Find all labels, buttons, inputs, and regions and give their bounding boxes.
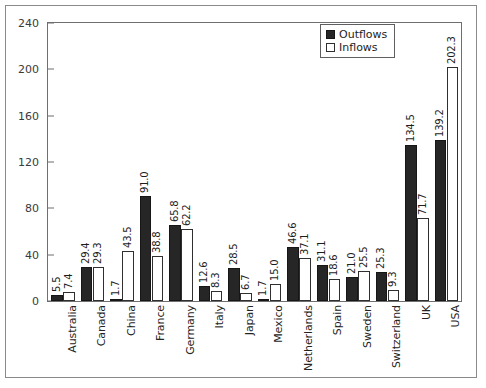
x-axis-label-switzerland: Switzerland (390, 305, 403, 368)
bar-value-label: 21.0 (345, 252, 356, 273)
bar-outflows: 1.7 (258, 299, 270, 301)
x-axis-label-mexico: Mexico (272, 305, 285, 343)
bar-inflows: 38.8 (152, 256, 164, 301)
bar-inflows: 6.7 (240, 293, 252, 301)
bar-outflows: 91.0 (140, 196, 152, 301)
legend-label-outflows: Outflows (339, 28, 387, 41)
bar-group: 1.715.0 (255, 23, 285, 301)
bar-value-label: 134.5 (404, 115, 415, 143)
chart-figure: 04080120160200240 5.57.429.429.31.743.59… (0, 0, 486, 388)
bar-inflows: 9.3 (388, 290, 400, 301)
bar-value-label: 7.4 (62, 274, 73, 289)
bar-value-label: 65.8 (168, 200, 179, 221)
x-axis-label-canada: Canada (95, 305, 108, 346)
bar-value-label: 31.1 (316, 241, 327, 262)
bar-inflows: 62.2 (181, 229, 193, 301)
bar-value-label: 71.7 (416, 193, 427, 214)
bar-group: 46.637.1 (284, 23, 314, 301)
bar-outflows: 28.5 (228, 268, 240, 301)
bar-value-label: 1.7 (257, 281, 268, 296)
x-axis-label-germany: Germany (184, 305, 197, 355)
bar-inflows: 202.3 (447, 67, 459, 301)
bar-value-label: 29.4 (80, 242, 91, 263)
bar-outflows: 12.6 (199, 286, 211, 301)
bar-value-label: 29.3 (92, 243, 103, 264)
bar-value-label: 62.2 (180, 204, 191, 225)
y-axis-tick-label: 160 (18, 109, 48, 122)
bar-value-label: 91.0 (139, 171, 150, 192)
plot-area: 04080120160200240 5.57.429.429.31.743.59… (47, 22, 462, 302)
bar-outflows: 46.6 (287, 247, 299, 301)
x-axis-label-spain: Spain (331, 305, 344, 335)
bar-inflows: 18.6 (329, 279, 341, 301)
y-axis-tick-label: 120 (18, 156, 48, 169)
bar-outflows: 65.8 (169, 225, 181, 301)
bar-outflows: 29.4 (81, 267, 93, 301)
legend-swatch-outflows-icon (326, 30, 335, 39)
bar-value-label: 37.1 (298, 234, 309, 255)
bar-group: 5.57.4 (48, 23, 78, 301)
bar-group: 134.571.7 (402, 23, 432, 301)
bar-outflows: 25.3 (376, 272, 388, 301)
bar-group: 91.038.8 (137, 23, 167, 301)
bar-inflows: 7.4 (63, 292, 75, 301)
bar-inflows: 15.0 (270, 284, 282, 301)
x-axis-label-netherlands: Netherlands (302, 305, 315, 371)
bar-value-label: 1.7 (109, 281, 120, 296)
bar-group: 12.68.3 (196, 23, 226, 301)
bar-value-label: 8.3 (210, 273, 221, 288)
y-axis-tick-label: 40 (25, 248, 48, 261)
bar-value-label: 139.2 (434, 109, 445, 137)
bar-value-label: 28.5 (227, 244, 238, 265)
bar-value-label: 38.8 (151, 232, 162, 253)
bar-outflows: 31.1 (317, 265, 329, 301)
bar-outflows: 134.5 (405, 145, 417, 301)
bar-value-label: 25.3 (375, 247, 386, 268)
bar-value-label: 25.5 (357, 247, 368, 268)
bar-value-label: 18.6 (328, 255, 339, 276)
x-axis-label-italy: Italy (213, 305, 226, 328)
bar-inflows: 37.1 (299, 258, 311, 301)
bar-group: 29.429.3 (78, 23, 108, 301)
bar-value-label: 15.0 (269, 259, 280, 280)
y-axis-tick-label: 80 (25, 202, 48, 215)
bar-value-label: 5.5 (50, 276, 61, 291)
x-axis-label-usa: USA (449, 305, 462, 327)
bar-group: 25.39.3 (373, 23, 403, 301)
y-axis-tick-label: 0 (32, 295, 48, 308)
x-axis-label-france: France (154, 305, 167, 341)
bar-group: 31.118.6 (314, 23, 344, 301)
bar-value-label: 202.3 (446, 36, 457, 64)
legend-swatch-inflows-icon (326, 43, 335, 52)
bar-group: 21.025.5 (343, 23, 373, 301)
legend-label-inflows: Inflows (339, 41, 378, 54)
bar-group: 1.743.5 (107, 23, 137, 301)
bar-group: 65.862.2 (166, 23, 196, 301)
bar-outflows: 21.0 (346, 277, 358, 301)
bar-inflows: 71.7 (417, 218, 429, 301)
bar-inflows: 29.3 (93, 267, 105, 301)
bar-outflows: 5.5 (51, 295, 63, 301)
bar-group: 139.2202.3 (432, 23, 462, 301)
x-axis-category-labels: AustraliaCanadaChinaFranceGermanyItalyJa… (47, 305, 462, 383)
bar-value-label: 6.7 (239, 275, 250, 290)
x-axis-label-china: China (125, 305, 138, 336)
bar-inflows: 43.5 (122, 251, 134, 301)
bars-layer: 5.57.429.429.31.743.591.038.865.862.212.… (48, 23, 461, 301)
y-axis-tick-label: 200 (18, 63, 48, 76)
bar-outflows: 139.2 (435, 140, 447, 301)
x-axis-label-sweden: Sweden (361, 305, 374, 348)
chart-legend: Outflows Inflows (320, 24, 395, 58)
x-axis-label-japan: Japan (243, 305, 256, 335)
bar-value-label: 9.3 (387, 272, 398, 287)
bar-value-label: 12.6 (198, 262, 209, 283)
bar-value-label: 43.5 (121, 226, 132, 247)
x-axis-label-uk: UK (420, 305, 433, 320)
legend-item-outflows: Outflows (326, 28, 387, 41)
bar-inflows: 25.5 (358, 271, 370, 301)
x-axis-label-australia: Australia (66, 305, 79, 353)
legend-item-inflows: Inflows (326, 41, 387, 54)
bar-outflows: 1.7 (110, 299, 122, 301)
bar-value-label: 46.6 (286, 223, 297, 244)
bar-inflows: 8.3 (211, 291, 223, 301)
